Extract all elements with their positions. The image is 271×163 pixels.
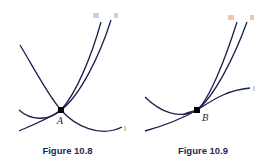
- curve-III-label: III: [93, 12, 99, 19]
- curve-II-label: II: [114, 12, 118, 19]
- point-A-marker: [58, 107, 64, 113]
- curve-III: [19, 22, 101, 118]
- figure-10-8-diagram: A I II III: [0, 0, 135, 163]
- point-A-label: A: [56, 116, 64, 126]
- figure-caption: Figure 10.8: [0, 145, 135, 156]
- curve-II-label: II: [250, 14, 254, 21]
- figure-caption: Figure 10.9: [135, 145, 271, 156]
- figure-10-9-diagram: B I II III: [135, 0, 271, 163]
- curve-II: [183, 22, 247, 115]
- curve-I-label: I: [124, 125, 126, 132]
- figure-10-9: B I II III Figure 10.9: [135, 0, 271, 163]
- point-B-marker: [194, 107, 200, 113]
- point-B-label: B: [201, 113, 209, 123]
- curve-III-label: III: [228, 14, 234, 21]
- curve-III: [145, 22, 237, 114]
- figure-10-8: A I II III Figure 10.8: [0, 0, 135, 163]
- curve-I-label: I: [253, 85, 255, 92]
